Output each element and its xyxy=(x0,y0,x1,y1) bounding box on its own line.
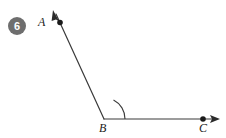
point-label-c: C xyxy=(199,122,207,134)
point-label-b: B xyxy=(99,122,106,134)
angle-diagram-svg xyxy=(0,0,226,138)
point-a-dot xyxy=(57,20,63,26)
angle-arc xyxy=(114,100,126,119)
ray-ba-line xyxy=(56,14,104,119)
ray-ba-group xyxy=(52,10,104,119)
geometry-figure: 6 A B C xyxy=(0,0,226,138)
ray-ba-arrowhead xyxy=(52,10,60,21)
point-label-a: A xyxy=(38,16,45,28)
